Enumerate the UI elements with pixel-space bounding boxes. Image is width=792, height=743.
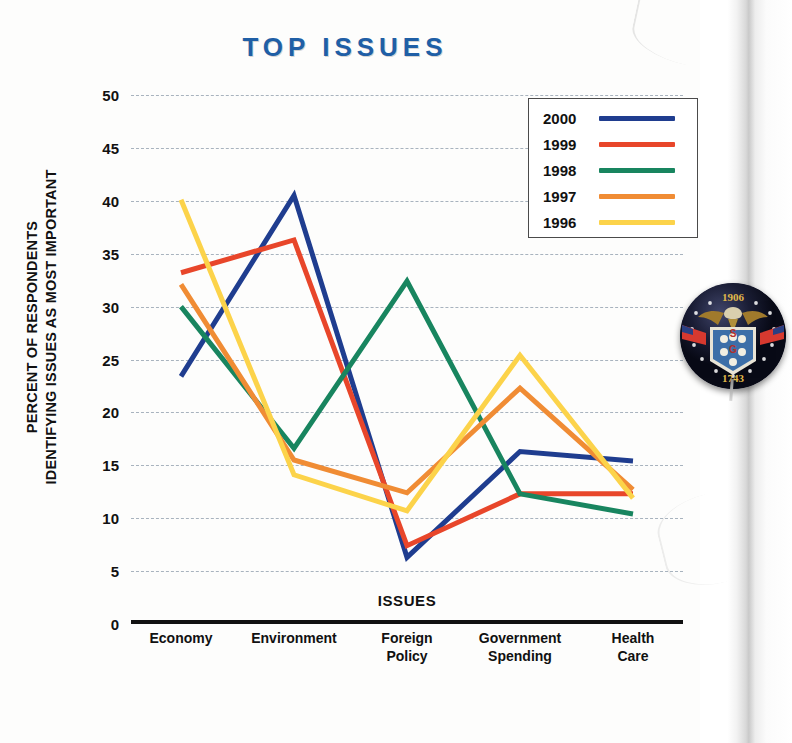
y-tick-label: 0 — [111, 616, 119, 633]
x-axis-line — [131, 620, 683, 624]
legend-label: 2000 — [543, 110, 591, 127]
y-axis-title: PERCENT OF RESPONDENTS IDENTIFYING ISSUE… — [23, 67, 61, 587]
series-line-1997 — [181, 284, 633, 492]
legend-swatch — [599, 220, 675, 225]
legend-item-1996[interactable]: 1996 — [529, 209, 697, 235]
y-tick-label: 45 — [102, 139, 119, 156]
svg-text:G: G — [729, 344, 737, 355]
y-tick-label: 5 — [111, 563, 119, 580]
x-tick-label: Economy — [149, 629, 212, 647]
x-axis-title: ISSUES — [131, 592, 683, 609]
y-tick-label: 25 — [102, 351, 119, 368]
series-line-1998 — [181, 281, 633, 514]
legend-label: 1998 — [543, 162, 591, 179]
svg-text:S: S — [730, 328, 737, 339]
legend-swatch — [599, 168, 675, 173]
y-tick-label: 50 — [102, 87, 119, 104]
legend-swatch — [599, 142, 675, 147]
legend-item-2000[interactable]: 2000 — [529, 105, 697, 131]
campaign-button: 1906 S G — [680, 283, 786, 395]
campaign-button-face: 1906 S G — [680, 283, 786, 389]
legend-swatch — [599, 194, 675, 199]
y-tick-label: 40 — [102, 192, 119, 209]
y-tick-label: 10 — [102, 510, 119, 527]
y-tick-label: 15 — [102, 457, 119, 474]
x-tick-label: Government Spending — [479, 629, 561, 665]
x-tick-label: Health Care — [612, 629, 655, 665]
campaign-button-art: 1906 S G — [680, 283, 786, 389]
legend-item-1998[interactable]: 1998 — [529, 157, 697, 183]
legend-label: 1999 — [543, 136, 591, 153]
legend-label: 1996 — [543, 214, 591, 231]
y-tick-label: 35 — [102, 245, 119, 262]
legend-swatch — [599, 116, 675, 121]
badge-top-year: 1906 — [722, 291, 745, 303]
chart-title: TOP ISSUES — [0, 32, 690, 63]
chart-legend: 20001999199819971996 — [528, 98, 698, 238]
x-tick-label: Foreign Policy — [381, 629, 432, 665]
legend-item-1999[interactable]: 1999 — [529, 131, 697, 157]
y-tick-label: 30 — [102, 298, 119, 315]
y-tick-label: 20 — [102, 404, 119, 421]
page-background: TOP ISSUES PERCENT OF RESPONDENTS IDENTI… — [0, 0, 792, 743]
x-tick-label: Environment — [251, 629, 337, 647]
series-line-1996 — [181, 200, 633, 511]
legend-item-1997[interactable]: 1997 — [529, 183, 697, 209]
badge-pin — [729, 379, 734, 401]
legend-label: 1997 — [543, 188, 591, 205]
